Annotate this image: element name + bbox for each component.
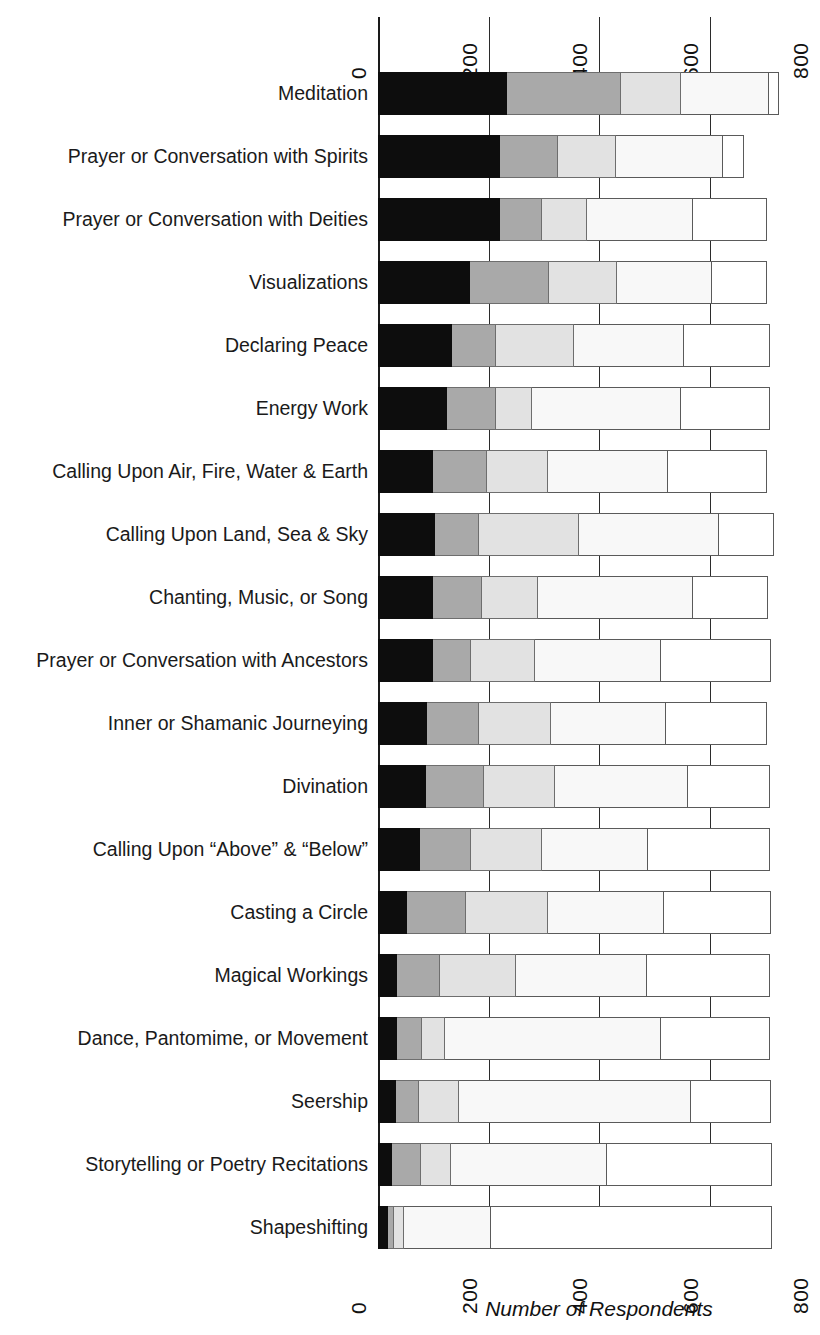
- bar-segment: [668, 450, 767, 493]
- category-label: Energy Work: [256, 399, 368, 419]
- bar-segment: [452, 324, 496, 367]
- bar-segment: [621, 72, 681, 115]
- category-label: Calling Upon Land, Sea & Sky: [106, 525, 368, 545]
- bar-segment: [693, 198, 768, 241]
- bar-segment: [378, 639, 433, 682]
- bar-segment: [532, 387, 681, 430]
- bar-segment: [484, 765, 556, 808]
- bar-segment: [466, 891, 548, 934]
- plot-area: [378, 17, 820, 1233]
- bar-segment: [482, 576, 538, 619]
- bar-segment: [607, 1143, 772, 1186]
- bar-segment: [617, 261, 713, 304]
- bar-segment: [471, 828, 541, 871]
- bar-segment: [479, 513, 580, 556]
- bar-row: [378, 1143, 772, 1186]
- bar-segment: [378, 954, 397, 997]
- bar-row: [378, 954, 770, 997]
- bar-row: [378, 828, 770, 871]
- bar-segment: [447, 387, 496, 430]
- category-label: Visualizations: [249, 273, 368, 293]
- bar-segment: [548, 450, 668, 493]
- bar-segment: [549, 261, 617, 304]
- bar-segment: [666, 702, 767, 745]
- bar-segment: [555, 765, 688, 808]
- bar-segment: [378, 135, 500, 178]
- bar-segment: [378, 891, 407, 934]
- bar-segment: [551, 702, 666, 745]
- bar-segment: [538, 576, 693, 619]
- bar-segment: [684, 324, 770, 367]
- bar-row: [378, 765, 770, 808]
- bar-segment: [378, 387, 447, 430]
- bar-row: [378, 891, 771, 934]
- category-label: Dance, Pantomime, or Movement: [78, 1029, 368, 1049]
- bar-segment: [719, 513, 774, 556]
- bar-row: [378, 450, 767, 493]
- bar-segment: [688, 765, 770, 808]
- bar-segment: [397, 954, 441, 997]
- bar-segment: [421, 1143, 451, 1186]
- bar-segment: [407, 891, 466, 934]
- bar-segment: [451, 1143, 607, 1186]
- category-label: Calling Upon “Above” & “Below”: [93, 840, 368, 860]
- bar-segment: [378, 72, 507, 115]
- bar-row: [378, 1080, 771, 1123]
- bar-row: [378, 513, 774, 556]
- bar-segment: [378, 324, 452, 367]
- bar-segment: [500, 135, 557, 178]
- bar-segment: [435, 513, 478, 556]
- bar-segment: [647, 954, 770, 997]
- bar-segment: [404, 1206, 491, 1249]
- bar-segment: [378, 261, 470, 304]
- bar-row: [378, 702, 767, 745]
- bar-segment: [691, 1080, 772, 1123]
- bar-segment: [378, 702, 427, 745]
- bar-segment: [378, 513, 435, 556]
- bar-segment: [587, 198, 693, 241]
- bar-segment: [661, 1017, 770, 1060]
- bar-segment: [422, 1017, 446, 1060]
- bar-segment: [445, 1017, 660, 1060]
- bar-segment: [681, 72, 769, 115]
- bar-segment: [433, 576, 482, 619]
- bar-segment: [378, 576, 433, 619]
- bar-segment: [723, 135, 743, 178]
- bar-segment: [681, 387, 769, 430]
- bar-segment: [548, 891, 665, 934]
- bar-segment: [664, 891, 771, 934]
- bar-row: [378, 198, 767, 241]
- bar-segment: [419, 1080, 458, 1123]
- bar-row: [378, 324, 770, 367]
- bar-segment: [579, 513, 719, 556]
- category-label: Meditation: [278, 84, 368, 104]
- category-label: Seership: [291, 1092, 368, 1112]
- bar-segment: [496, 324, 574, 367]
- category-label: Casting a Circle: [230, 903, 368, 923]
- bar-row: [378, 387, 770, 430]
- category-label: Declaring Peace: [225, 336, 368, 356]
- bar-segment: [616, 135, 723, 178]
- bar-segment: [427, 702, 478, 745]
- stacked-bar-chart: 0200400600800 MeditationPrayer or Conver…: [0, 0, 820, 1335]
- bar-segment: [500, 198, 542, 241]
- category-label: Shapeshifting: [250, 1218, 368, 1238]
- bar-segment: [378, 1080, 396, 1123]
- bar-segment: [542, 198, 587, 241]
- bar-segment: [487, 450, 547, 493]
- bar-segment: [470, 261, 549, 304]
- bar-segment: [459, 1080, 691, 1123]
- top-axis-tick-0: 0: [347, 67, 371, 79]
- bar-segment: [542, 828, 648, 871]
- bar-row: [378, 639, 771, 682]
- bar-segment: [491, 1206, 772, 1249]
- bar-segment: [507, 72, 620, 115]
- bar-segment: [661, 639, 771, 682]
- bar-segment: [420, 828, 471, 871]
- bottom-axis-tick-0: 0: [347, 1302, 371, 1314]
- bar-segment: [496, 387, 532, 430]
- bar-row: [378, 576, 768, 619]
- bar-segment: [426, 765, 484, 808]
- bar-segment: [558, 135, 617, 178]
- bar-segment: [378, 450, 433, 493]
